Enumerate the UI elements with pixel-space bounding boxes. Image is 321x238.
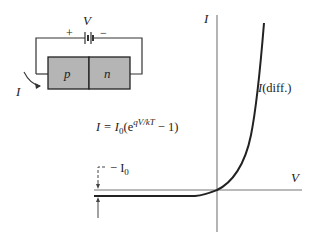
arrowhead-icon (35, 83, 41, 89)
p-label: p (63, 66, 71, 81)
up-arrow-icon (96, 197, 100, 202)
diode-equation: I = I0(eqV/kT − 1) (95, 117, 178, 136)
voltage-label: V (83, 13, 93, 28)
diode-iv-diagram: V + − p n I I = I0(eqV/kT − 1) I V I(dif… (0, 0, 321, 238)
i-axis-label: I (203, 11, 209, 26)
curve-label: I(diff.) (257, 81, 291, 95)
battery-icon (85, 32, 93, 44)
plus-sign: + (66, 26, 73, 40)
v-axis-label: V (291, 170, 301, 185)
saturation-label: − I0 (110, 161, 129, 177)
down-arrow-icon (96, 184, 100, 189)
minus-sign: − (100, 26, 107, 40)
saturation-marker (98, 167, 106, 218)
n-label: n (104, 66, 111, 81)
current-label: I (15, 84, 21, 99)
